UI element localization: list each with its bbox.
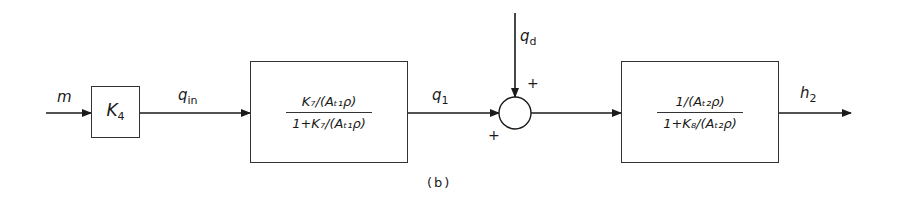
tank2-numerator: 1/(Aₜ₂ρ)	[670, 94, 731, 112]
tank1-denominator: 1+K₇/(Aₜ₁ρ)	[286, 112, 372, 131]
k4-sub: 4	[118, 110, 125, 123]
label-m: m	[57, 90, 72, 105]
sum-sign-top: +	[527, 76, 539, 90]
block-tank2-transfer: 1/(Aₜ₂ρ) 1+K₈/(Aₜ₂ρ)	[621, 61, 779, 163]
tank2-denominator: 1+K₈/(Aₜ₂ρ)	[657, 112, 743, 131]
tank1-fraction: K₇/(Aₜ₁ρ) 1+K₇/(Aₜ₁ρ)	[286, 94, 372, 131]
tank2-fraction: 1/(Aₜ₂ρ) 1+K₈/(Aₜ₂ρ)	[657, 94, 743, 131]
label-qd: qd	[520, 29, 537, 47]
q-in-base: q	[178, 86, 188, 104]
tank1-numerator: K₇/(Aₜ₁ρ)	[296, 94, 362, 112]
qd-base: q	[520, 27, 530, 45]
h2-sub: 2	[810, 92, 817, 105]
label-q-in: qin	[178, 88, 198, 106]
k4-base: K	[106, 100, 117, 120]
q-in-sub: in	[188, 94, 198, 107]
sum-sign-left: +	[488, 128, 500, 142]
block-k4: K4	[91, 86, 140, 138]
block-tank1-transfer: K₇/(Aₜ₁ρ) 1+K₇/(Aₜ₁ρ)	[250, 61, 408, 163]
k4-label: K4	[106, 102, 124, 122]
figure-caption: (b)	[427, 175, 451, 190]
label-q1: q1	[432, 88, 449, 106]
label-m-text: m	[57, 88, 72, 106]
label-h2: h2	[800, 86, 817, 104]
q1-sub: 1	[442, 94, 449, 107]
summing-junction	[499, 97, 531, 129]
q1-base: q	[432, 86, 442, 104]
qd-sub: d	[530, 35, 537, 48]
h2-base: h	[800, 84, 810, 102]
